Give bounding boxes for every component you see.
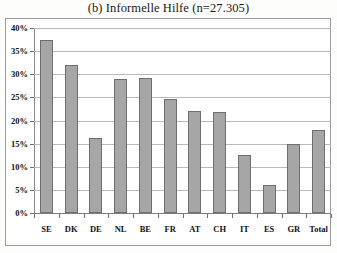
bar-fr bbox=[164, 99, 177, 213]
x-axis-label-se: SE bbox=[41, 224, 51, 234]
figure: (b) Informelle Hilfe (n=27.305) 0%5%10%1… bbox=[0, 0, 337, 253]
x-tick-mark bbox=[306, 214, 307, 218]
x-tick-mark bbox=[207, 214, 208, 218]
x-axis-label-fr: FR bbox=[164, 224, 175, 234]
x-tick-mark bbox=[331, 214, 332, 218]
y-tick-mark bbox=[30, 28, 34, 29]
x-axis-label-ch: CH bbox=[213, 224, 226, 234]
gridline bbox=[34, 121, 331, 122]
bar-se bbox=[40, 40, 53, 213]
y-axis-label: 40% bbox=[11, 23, 28, 33]
x-tick-mark bbox=[232, 214, 233, 218]
bar-ch bbox=[213, 112, 226, 213]
y-tick-mark bbox=[30, 144, 34, 145]
x-axis-label-es: ES bbox=[264, 224, 274, 234]
gridline bbox=[34, 74, 331, 75]
x-axis-label-at: AT bbox=[189, 224, 200, 234]
plot-area: 0%5%10%15%20%25%30%35%40% bbox=[34, 28, 331, 213]
bar-it bbox=[238, 155, 251, 213]
bar-es bbox=[263, 185, 276, 213]
y-axis-label: 25% bbox=[11, 92, 28, 102]
y-tick-mark bbox=[30, 97, 34, 98]
x-tick-mark bbox=[158, 214, 159, 218]
x-axis-label-gr: GR bbox=[288, 224, 301, 234]
x-axis-label-total: Total bbox=[309, 224, 328, 234]
x-axis-ticks bbox=[34, 214, 331, 220]
x-tick-mark bbox=[34, 214, 35, 218]
bar-at bbox=[188, 111, 201, 213]
bar-nl bbox=[114, 79, 127, 213]
gridline bbox=[34, 51, 331, 52]
x-tick-mark bbox=[257, 214, 258, 218]
x-tick-mark bbox=[59, 214, 60, 218]
y-tick-mark bbox=[30, 190, 34, 191]
x-axis-label-it: IT bbox=[240, 224, 249, 234]
y-tick-mark bbox=[30, 121, 34, 122]
x-axis-label-dk: DK bbox=[65, 224, 78, 234]
y-axis-label: 0% bbox=[15, 208, 28, 218]
y-tick-mark bbox=[30, 51, 34, 52]
y-axis-label: 35% bbox=[11, 46, 28, 56]
bar-de bbox=[89, 138, 102, 213]
y-axis-label: 20% bbox=[11, 116, 28, 126]
bar-gr bbox=[287, 144, 300, 213]
bar-be bbox=[139, 78, 152, 213]
x-axis-label-de: DE bbox=[90, 224, 102, 234]
x-tick-mark bbox=[84, 214, 85, 218]
x-axis-label-be: BE bbox=[140, 224, 151, 234]
y-axis-label: 30% bbox=[11, 69, 28, 79]
y-tick-mark bbox=[30, 167, 34, 168]
x-tick-mark bbox=[133, 214, 134, 218]
bar-total bbox=[312, 130, 325, 213]
y-axis-label: 15% bbox=[11, 139, 28, 149]
x-tick-mark bbox=[108, 214, 109, 218]
y-axis-label: 5% bbox=[15, 185, 28, 195]
y-tick-mark bbox=[30, 74, 34, 75]
chart-title: (b) Informelle Hilfe (n=27.305) bbox=[0, 1, 337, 16]
x-axis-label-nl: NL bbox=[115, 224, 127, 234]
gridline bbox=[34, 28, 331, 29]
plot-frame: 0%5%10%15%20%25%30%35%40% SEDKDENLBEFRAT… bbox=[5, 18, 331, 246]
gridline bbox=[34, 97, 331, 98]
x-tick-mark bbox=[282, 214, 283, 218]
bar-dk bbox=[65, 65, 78, 213]
x-tick-mark bbox=[183, 214, 184, 218]
y-axis-label: 10% bbox=[11, 162, 28, 172]
